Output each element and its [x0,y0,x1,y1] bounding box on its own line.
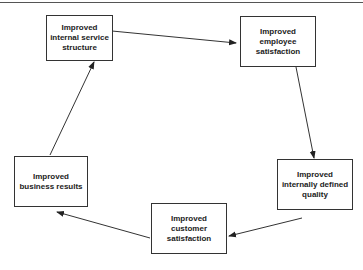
node-customer-satisfaction: Improved customer satisfaction [151,203,227,254]
node-label: Improved internally defined quality [280,170,350,200]
node-label: Improved customer satisfaction [166,214,212,244]
node-label: Improved employee satisfaction [253,27,303,57]
node-employee-satisfaction: Improved employee satisfaction [240,16,316,67]
arrow-n3-to-n4 [229,218,302,236]
node-internally-defined-quality: Improved internally defined quality [277,159,353,210]
arrow-n1-to-n2 [112,31,236,43]
node-label: Improved internal service structure [49,23,110,53]
arrow-n4-to-n5 [57,212,150,238]
node-internal-service-structure: Improved internal service structure [46,15,113,61]
node-label: Improved business results [18,172,84,192]
arrow-n2-to-n3 [296,67,314,158]
node-business-results: Improved business results [14,156,88,207]
arrow-n5-to-n1 [50,62,94,155]
